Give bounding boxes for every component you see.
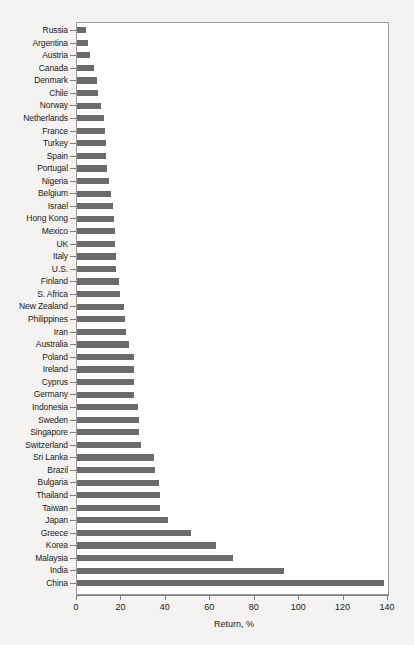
- bar-row: India: [0, 564, 414, 577]
- bar-row: Canada: [0, 62, 414, 75]
- bar-row: Poland: [0, 351, 414, 364]
- category-label: Nigeria: [0, 175, 68, 188]
- bar: [77, 404, 138, 410]
- category-label: Thailand: [0, 489, 68, 502]
- category-label: New Zealand: [0, 300, 68, 313]
- bar-row: Netherlands: [0, 112, 414, 125]
- y-axis-tick: [70, 407, 76, 408]
- x-axis-tick-label: 60: [204, 602, 214, 612]
- category-label: Sri Lanka: [0, 451, 68, 464]
- category-label: UK: [0, 238, 68, 251]
- bar: [77, 429, 139, 435]
- y-axis-tick: [70, 306, 76, 307]
- bar-row: Brazil: [0, 464, 414, 477]
- bar: [77, 140, 106, 146]
- y-axis-tick: [70, 93, 76, 94]
- bar-row: Austria: [0, 49, 414, 62]
- bar-row: Japan: [0, 514, 414, 527]
- category-label: Sweden: [0, 414, 68, 427]
- bar-row: Nigeria: [0, 175, 414, 188]
- bar: [77, 480, 159, 486]
- bar-row: Thailand: [0, 489, 414, 502]
- y-axis-tick: [70, 394, 76, 395]
- category-label: Poland: [0, 351, 68, 364]
- y-axis-tick: [70, 495, 76, 496]
- category-label: Korea: [0, 539, 68, 552]
- category-label: Indonesia: [0, 401, 68, 414]
- x-axis-tick-label: 100: [291, 602, 306, 612]
- y-axis-tick: [70, 382, 76, 383]
- bar: [77, 530, 191, 536]
- bar: [77, 366, 134, 372]
- bar-row: Sri Lanka: [0, 451, 414, 464]
- category-label: Argentina: [0, 37, 68, 50]
- bar-row: Taiwan: [0, 502, 414, 515]
- y-axis-tick: [70, 570, 76, 571]
- y-axis-tick: [70, 508, 76, 509]
- bar: [77, 316, 125, 322]
- y-axis-tick: [70, 319, 76, 320]
- category-label: Malaysia: [0, 552, 68, 565]
- y-axis-tick: [70, 344, 76, 345]
- y-axis-tick: [70, 80, 76, 81]
- category-label: Netherlands: [0, 112, 68, 125]
- y-axis-tick: [70, 118, 76, 119]
- bar-row: Chile: [0, 87, 414, 100]
- bar-row: Sweden: [0, 414, 414, 427]
- bar-row: Germany: [0, 388, 414, 401]
- y-axis-tick: [70, 68, 76, 69]
- y-axis-tick: [70, 470, 76, 471]
- bar: [77, 27, 86, 33]
- bar: [77, 40, 88, 46]
- bar: [77, 291, 120, 297]
- category-label: Italy: [0, 250, 68, 263]
- y-axis-tick: [70, 43, 76, 44]
- y-axis-tick: [70, 432, 76, 433]
- category-label: Mexico: [0, 225, 68, 238]
- bar: [77, 278, 119, 284]
- bar: [77, 90, 98, 96]
- category-label: S. Africa: [0, 288, 68, 301]
- bar: [77, 555, 233, 561]
- y-axis-tick: [70, 244, 76, 245]
- bar-row: Portugal: [0, 162, 414, 175]
- bar: [77, 77, 97, 83]
- category-label: Spain: [0, 150, 68, 163]
- y-axis-tick: [70, 143, 76, 144]
- bar: [77, 266, 116, 272]
- bar-row: Greece: [0, 527, 414, 540]
- category-label: Germany: [0, 388, 68, 401]
- category-label: Taiwan: [0, 502, 68, 515]
- x-axis-tick-label: 140: [379, 602, 394, 612]
- category-label: Brazil: [0, 464, 68, 477]
- bar: [77, 492, 160, 498]
- bar-row: Switzerland: [0, 439, 414, 452]
- y-axis-tick: [70, 357, 76, 358]
- bar-row: Hong Kong: [0, 212, 414, 225]
- bar-row: S. Africa: [0, 288, 414, 301]
- category-label: Japan: [0, 514, 68, 527]
- bar: [77, 128, 105, 134]
- bar: [77, 65, 94, 71]
- bar: [77, 467, 155, 473]
- category-label: Australia: [0, 338, 68, 351]
- category-label: Switzerland: [0, 439, 68, 452]
- y-axis-tick: [70, 369, 76, 370]
- bar: [77, 517, 168, 523]
- y-axis-tick: [70, 558, 76, 559]
- bar-row: Malaysia: [0, 552, 414, 565]
- bar-row: Norway: [0, 99, 414, 112]
- bar-row: Israel: [0, 200, 414, 213]
- bar-row: Indonesia: [0, 401, 414, 414]
- x-axis-tick: [254, 595, 255, 600]
- category-label: Turkey: [0, 137, 68, 150]
- bar-row: Argentina: [0, 37, 414, 50]
- bar-row: Ireland: [0, 363, 414, 376]
- bar: [77, 354, 134, 360]
- category-label: Austria: [0, 49, 68, 62]
- y-axis-tick: [70, 55, 76, 56]
- bar: [77, 568, 284, 574]
- y-axis-tick: [70, 281, 76, 282]
- category-label: Ireland: [0, 363, 68, 376]
- y-axis-tick: [70, 545, 76, 546]
